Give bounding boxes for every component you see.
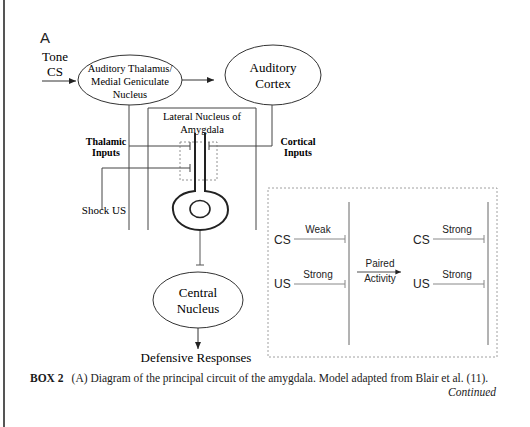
inset-after-us-label: US — [413, 277, 430, 291]
caption-text: (A) Diagram of the principal circuit of … — [72, 372, 489, 384]
caption-label: BOX 2 — [30, 372, 64, 384]
inset-after-cs-label: CS — [413, 233, 430, 247]
cortical-inputs-label-1: Cortical — [281, 136, 316, 147]
central-nucleus-label-1: Central — [179, 285, 218, 300]
inset-after-us-strength: Strong — [442, 269, 471, 280]
inset-before-us-strength: Strong — [303, 269, 332, 280]
amygdala-circuit-diagram: A Tone CS Auditory Thalamus/ Medial Geni… — [0, 0, 530, 427]
defensive-responses-label: Defensive Responses — [141, 350, 252, 365]
auditory-cortex-label-1: Auditory — [250, 60, 297, 75]
auditory-thalamus-label-1: Auditory Thalamus/ — [88, 63, 173, 74]
lateral-nucleus-label-2: Amygdala — [180, 124, 224, 135]
inset-transition-label-2: Activity — [364, 273, 396, 284]
auditory-thalamus-label-3: Nucleus — [113, 89, 147, 100]
central-nucleus-node — [153, 272, 243, 328]
shock-us-label: Shock US — [82, 204, 126, 216]
continued-note: Continued — [448, 386, 496, 398]
neuron-nucleus — [190, 201, 210, 218]
tone-cs-label: Tone — [42, 49, 68, 64]
thalamic-inputs-label-1: Thalamic — [86, 136, 127, 147]
synapse-region — [180, 142, 217, 180]
central-nucleus-label-2: Nucleus — [177, 301, 220, 316]
auditory-cortex-label-2: Cortex — [255, 76, 291, 91]
inset-before-cs-strength: Weak — [305, 224, 331, 235]
neuron-soma — [173, 191, 228, 230]
auditory-cortex-node — [225, 45, 321, 105]
tone-cs-label-2: CS — [47, 64, 63, 79]
thalamic-inputs-label-2: Inputs — [92, 147, 120, 158]
panel-label: A — [40, 29, 50, 46]
auditory-thalamus-label-2: Medial Geniculate — [91, 76, 169, 87]
inset-transition-label-1: Paired — [366, 258, 395, 269]
inset-before-cs-label: CS — [274, 233, 291, 247]
cortical-inputs-label-2: Inputs — [284, 147, 312, 158]
inset-before-us-label: US — [274, 277, 291, 291]
lateral-nucleus-label-1: Lateral Nucleus of — [163, 111, 242, 122]
inset-after-cs-strength: Strong — [442, 224, 471, 235]
figure-caption: BOX 2(A) Diagram of the principal circui… — [30, 371, 500, 385]
